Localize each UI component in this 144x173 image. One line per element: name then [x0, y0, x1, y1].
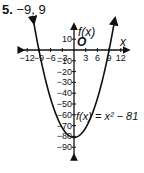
x-tick-label: −9 [34, 53, 44, 63]
x-tick-label: −6 [45, 53, 55, 63]
function-label: f(x) = x² − 81 [76, 110, 138, 122]
y-tick-label: 10 [62, 34, 72, 44]
y-tick-label: −50 [57, 99, 72, 109]
y-tick-label: −40 [57, 88, 72, 98]
x-tick-label: 6 [95, 53, 100, 63]
x-tick-label: −12 [20, 53, 35, 63]
x-tick-label: 3 [83, 53, 88, 63]
y-tick-label: −90 [57, 142, 72, 152]
x-axis-label: x [119, 35, 127, 49]
y-tick-label: −20 [57, 67, 72, 77]
y-tick-label: −60 [57, 110, 72, 120]
chart: −12−9−6−33691210−10−20−30−40−50−60−70−80… [0, 0, 144, 173]
x-tick-label: 12 [116, 53, 126, 63]
y-tick-label: −30 [57, 77, 72, 87]
y-tick-label: −10 [57, 56, 72, 66]
origin-label: O [77, 35, 87, 49]
